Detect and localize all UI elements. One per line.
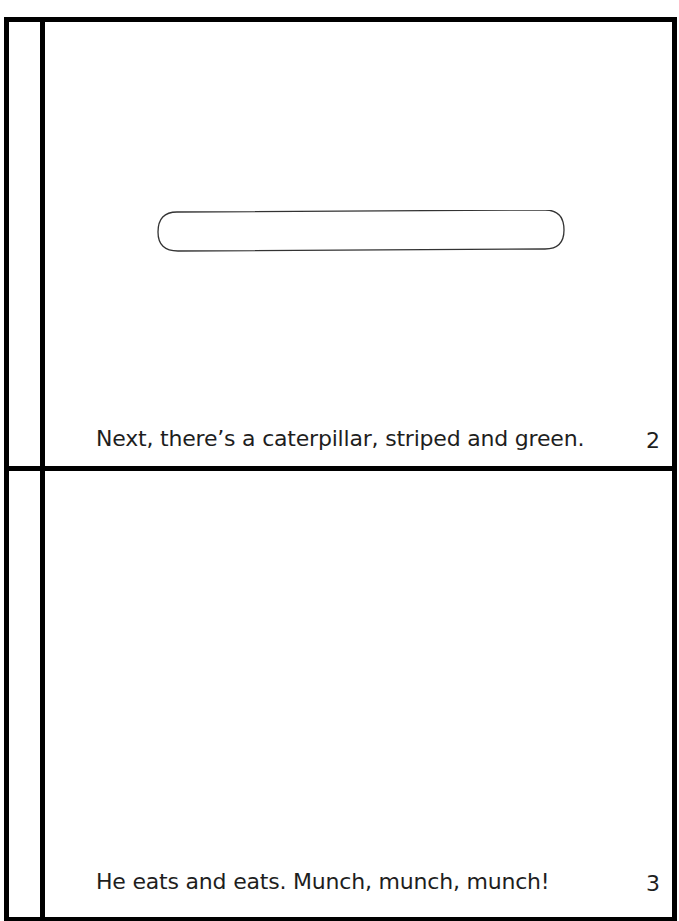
book-page-2: Next, there’s a caterpillar, striped and… bbox=[45, 22, 671, 466]
page-caption: Next, there’s a caterpillar, striped and… bbox=[96, 426, 584, 451]
page-number: 3 bbox=[646, 871, 660, 896]
book-page-3: He eats and eats. Munch, munch, munch! 3 bbox=[45, 471, 671, 915]
page-caption: He eats and eats. Munch, munch, munch! bbox=[96, 869, 549, 894]
caterpillar-outline-shape bbox=[157, 210, 565, 252]
page-number: 2 bbox=[646, 428, 660, 453]
